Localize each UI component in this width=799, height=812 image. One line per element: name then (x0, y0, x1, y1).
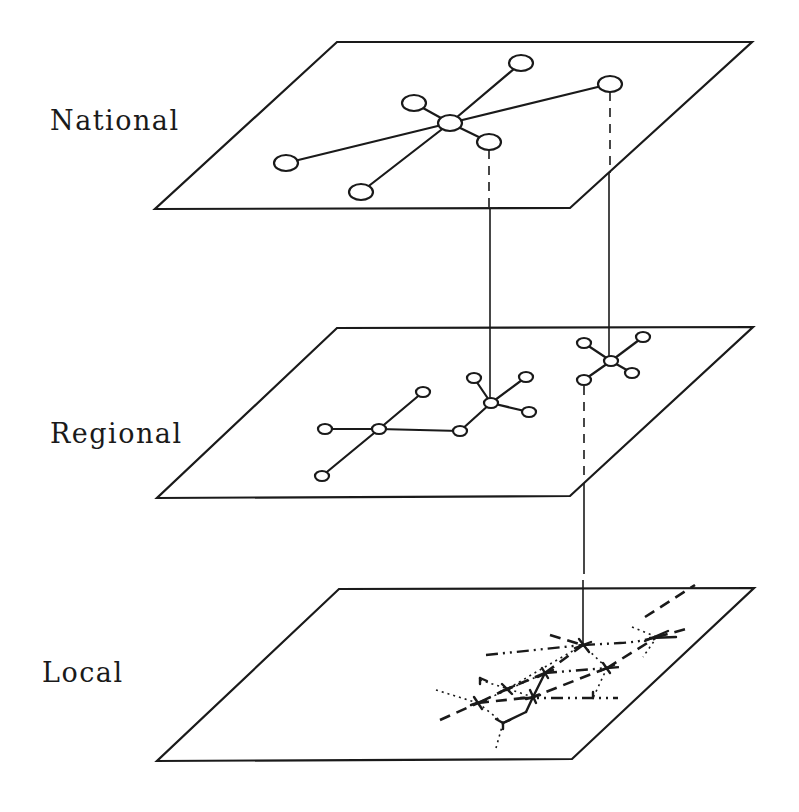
regional-hub (484, 398, 498, 408)
national-node (477, 134, 501, 150)
regional-plane (157, 327, 753, 498)
local-plane (157, 588, 754, 761)
regional-node (636, 332, 650, 342)
national-hub (438, 115, 462, 131)
label-national: National (50, 105, 180, 136)
regional-node (315, 471, 329, 481)
national-level (155, 42, 752, 209)
regional-hub (604, 356, 618, 366)
regional-level (157, 327, 753, 498)
regional-node (577, 375, 591, 385)
national-node (349, 184, 373, 200)
national-node (598, 76, 622, 92)
regional-node (318, 424, 332, 434)
label-regional: Regional (50, 418, 183, 449)
regional-node (453, 426, 467, 436)
regional-node (625, 368, 639, 378)
national-node (274, 155, 298, 171)
regional-node (467, 373, 481, 383)
regional-node (577, 338, 591, 348)
national-node (509, 55, 533, 71)
label-local: Local (42, 657, 124, 688)
regional-hub (372, 424, 386, 434)
local-level (157, 585, 754, 761)
regional-node (416, 387, 430, 397)
regional-node (519, 372, 533, 382)
regional-node (522, 407, 536, 417)
national-node (402, 95, 426, 111)
hierarchical-network-diagram: National Regional Local (0, 0, 799, 812)
